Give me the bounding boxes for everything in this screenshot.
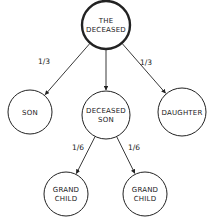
nodes: THEDECEASEDSONDECEASEDSONDAUGHTERGRANDCH…: [8, 1, 206, 216]
node-label: CHILD: [55, 195, 78, 203]
edge-deceased_son-to-grandchild_left: [76, 136, 95, 173]
edge-share-label: 1/6: [128, 143, 140, 152]
node-label: THE: [98, 17, 114, 25]
edge-share-label: 1/3: [38, 57, 50, 66]
node-label: GRAND: [53, 186, 79, 194]
edge-deceased-to-son: [45, 43, 90, 95]
node-son: SON: [8, 90, 52, 134]
node-grandchild-right: GRANDCHILD: [123, 172, 167, 216]
edge-deceased-to-daughter: [122, 43, 166, 93]
node-label: CHILD: [134, 195, 157, 203]
node-label: SON: [98, 116, 114, 124]
node-label: GRAND: [132, 186, 158, 194]
node-label: SON: [22, 109, 38, 117]
node-grandchild-left: GRANDCHILD: [44, 172, 88, 216]
node-label: DAUGHTER: [161, 109, 202, 117]
node-label: DECEASED: [86, 26, 126, 34]
edge-share-label: 1/6: [72, 143, 84, 152]
node-deceased: THEDECEASED: [82, 1, 130, 49]
node-deceased-son: DECEASEDSON: [82, 91, 130, 139]
node-daughter: DAUGHTER: [158, 88, 206, 136]
inheritance-diagram: 1/31/31/61/6 THEDECEASEDSONDECEASEDSONDA…: [0, 0, 212, 219]
node-label: DECEASED: [86, 107, 126, 115]
edge-share-label: 1/3: [140, 58, 152, 67]
